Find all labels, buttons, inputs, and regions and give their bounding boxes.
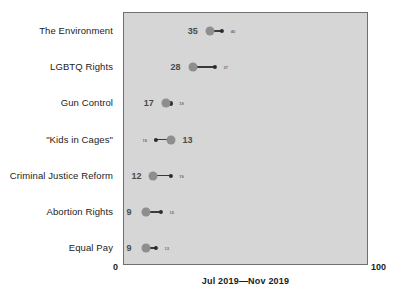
end-value-dot	[213, 65, 217, 69]
category-axis-labels: The EnvironmentLGBTQ RightsGun Control"K…	[0, 12, 117, 265]
start-value-dot	[161, 99, 170, 108]
start-value-dot	[142, 243, 151, 252]
end-value-dot	[154, 137, 158, 141]
plot-area: 35402837171913191219915913	[123, 12, 368, 265]
end-value-label: 19	[143, 137, 147, 142]
axis-max-label: 100	[371, 262, 386, 272]
end-value-label: 13	[165, 245, 169, 250]
end-value-label: 19	[179, 101, 183, 106]
end-value-dot	[154, 246, 158, 250]
end-value-dot	[220, 29, 224, 33]
start-value-label: 17	[144, 98, 154, 108]
axis-caption: Jul 2019—Nov 2019	[123, 276, 368, 286]
start-value-dot	[166, 135, 175, 144]
start-value-dot	[188, 63, 197, 72]
end-value-dot	[159, 210, 163, 214]
end-value-label: 40	[231, 29, 235, 34]
category-label: "Kids in Cages"	[46, 133, 113, 144]
start-value-label: 12	[131, 171, 141, 181]
category-label: Criminal Justice Reform	[10, 169, 113, 180]
start-value-dot	[149, 171, 158, 180]
dumbbell-chart: The EnvironmentLGBTQ RightsGun Control"K…	[0, 0, 403, 302]
end-value-dot	[168, 174, 172, 178]
category-label: Gun Control	[61, 97, 113, 108]
start-value-label: 9	[127, 243, 132, 253]
end-value-label: 15	[170, 209, 174, 214]
end-value-label: 37	[223, 65, 227, 70]
start-value-label: 9	[127, 207, 132, 217]
end-value-label: 19	[179, 173, 183, 178]
start-value-label: 28	[171, 62, 181, 72]
axis-min-label: 0	[113, 262, 118, 272]
start-value-label: 35	[188, 26, 198, 36]
category-label: LGBTQ Rights	[50, 61, 113, 72]
start-value-label: 13	[183, 135, 193, 145]
start-value-dot	[142, 207, 151, 216]
category-label: Abortion Rights	[47, 205, 113, 216]
category-label: The Environment	[39, 25, 113, 36]
category-label: Equal Pay	[69, 241, 113, 252]
start-value-dot	[205, 27, 214, 36]
